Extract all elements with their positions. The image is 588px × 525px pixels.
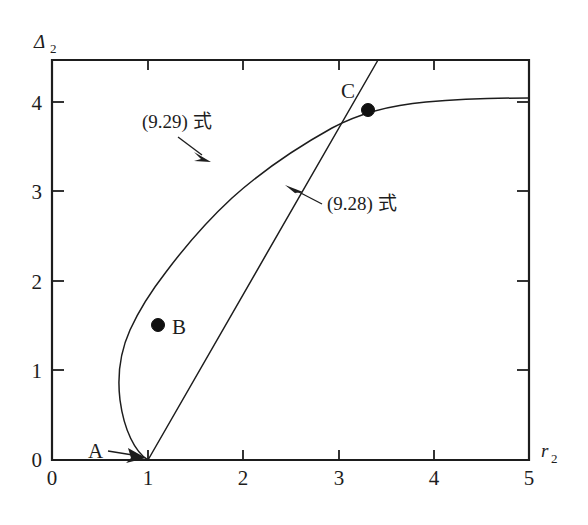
annotation-929: (9.29) 式 [142,111,212,162]
x-axis-title: r 2 [541,440,558,466]
curve-929-path [119,98,529,460]
x-tick-label-1: 1 [143,466,154,490]
y-tick-labels: 0 1 2 3 4 [32,91,43,472]
annotation-928-label: (9.28) 式 [327,193,397,215]
x-tick-label-0: 0 [47,466,58,490]
y-tick-label-1: 1 [32,359,43,383]
point-b-marker [152,319,165,332]
y-tick-label-4: 4 [32,91,43,115]
annotation-928: (9.28) 式 [285,185,397,215]
x-axis-ticks-top [148,60,434,70]
y-axis-title: Δ 2 [33,31,57,56]
y-axis-title-symbol: Δ [33,31,45,52]
x-axis-title-subscript: 2 [551,451,558,466]
x-tick-label-4: 4 [429,466,440,490]
chart-figure: B C A (9.29) 式 (9.28) 式 0 1 2 3 4 5 [0,0,588,525]
plot-canvas: B C A (9.29) 式 (9.28) 式 0 1 2 3 4 5 [0,0,588,525]
point-a-label: A [88,439,104,463]
x-axis-ticks [148,450,434,460]
y-tick-label-0: 0 [32,448,43,472]
data-point-markers [152,104,375,332]
annotation-929-label: (9.29) 式 [142,111,212,133]
frame-border [52,60,529,460]
y-axis-ticks [52,102,64,370]
x-tick-label-5: 5 [524,466,535,490]
y-axis-title-subscript: 2 [50,41,57,56]
y-tick-label-3: 3 [32,180,43,204]
y-axis-ticks-right [517,102,529,370]
x-axis-title-symbol: r [541,440,549,461]
series-curve-929 [119,98,529,460]
point-c-marker [362,104,375,117]
x-tick-label-2: 2 [238,466,249,490]
x-tick-labels: 0 1 2 3 4 5 [47,466,535,490]
point-b-label: B [172,315,186,339]
plot-frame [52,60,529,460]
y-tick-label-2: 2 [32,270,43,294]
point-c-label: C [341,79,355,103]
annotation-929-leader-line [178,137,202,155]
x-tick-label-3: 3 [334,466,345,490]
annotation-929-arrowhead [194,152,211,162]
